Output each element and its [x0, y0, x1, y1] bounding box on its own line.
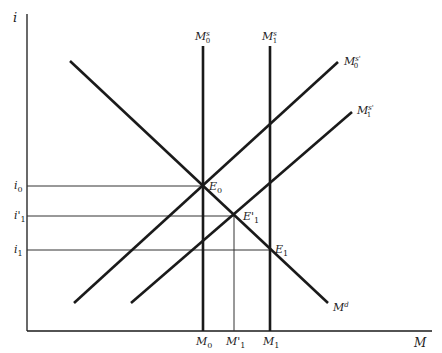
label-m0-supply: Ms0: [194, 30, 210, 45]
tick-i0: i0: [14, 179, 23, 194]
curve-money-demand: [70, 61, 328, 303]
label-m1-supply-prime: Ms'1: [356, 104, 374, 119]
tick-i1-prime: i'1: [14, 209, 26, 224]
x-axis-label: M: [413, 336, 427, 350]
label-money-demand: Md: [332, 301, 349, 314]
diagram-canvas: i M Ms0 Ms1 Ms'0 Ms'1 Md E0 E'1 E1 i0 i'…: [0, 0, 442, 353]
tick-m0: M0: [195, 335, 212, 350]
label-e1-prime: E'1: [242, 210, 259, 225]
curve-m0-supply-prime: [74, 62, 338, 303]
label-e0: E0: [208, 180, 222, 195]
tick-i1: i1: [14, 243, 23, 258]
curve-m1-supply-prime: [131, 112, 352, 303]
label-m0-supply-prime: Ms'0: [343, 55, 361, 70]
tick-m1: M1: [262, 335, 279, 350]
tick-m1-prime: M'1: [225, 335, 245, 350]
money-market-diagram: i M Ms0 Ms1 Ms'0 Ms'1 Md E0 E'1 E1 i0 i'…: [0, 0, 442, 353]
label-e1: E1: [274, 243, 288, 258]
y-axis-label: i: [13, 10, 17, 25]
label-m1-supply: Ms1: [261, 30, 277, 45]
